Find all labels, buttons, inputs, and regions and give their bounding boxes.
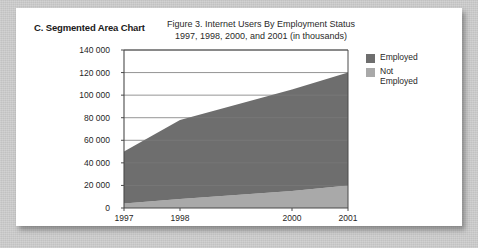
legend-item: Not Employed [366,67,456,86]
page-background: C. Segmented Area Chart Figure 3. Intern… [0,0,478,248]
legend-swatch-icon [366,54,375,63]
x-tick-label: 1998 [171,213,190,223]
x-tick-label: 2000 [283,213,302,223]
legend-label: Not Employed [380,67,418,86]
legend-label: Employed [380,53,418,63]
chart-legend: EmployedNot Employed [366,53,456,90]
x-tick-label: 2001 [339,213,358,223]
x-axis-tick-labels: 1997199820002001 [16,8,462,226]
figure-card: C. Segmented Area Chart Figure 3. Intern… [16,8,462,226]
x-tick-label: 1997 [115,213,134,223]
legend-item: Employed [366,53,456,63]
legend-swatch-icon [366,68,375,77]
